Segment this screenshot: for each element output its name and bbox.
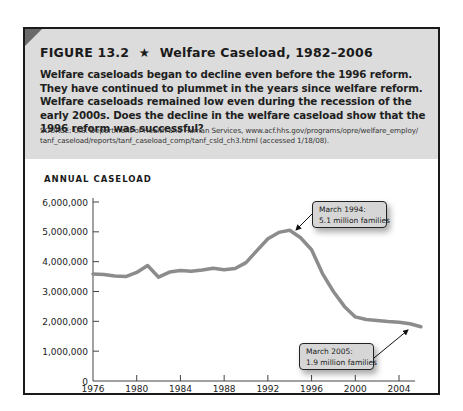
y-tick-label: 2,000,000 xyxy=(42,317,88,327)
callout-2005-line2: 1.9 million families xyxy=(306,358,367,369)
y-tick-label: 1,000,000 xyxy=(42,347,88,357)
y-tick-label: 6,000,000 xyxy=(42,198,88,208)
arrow-2005 xyxy=(374,330,408,358)
callout-arrows xyxy=(296,214,408,358)
y-tick-label: 3,000,000 xyxy=(42,287,88,297)
callout-peak-1994: March 1994: 5.1 million families xyxy=(312,201,387,228)
y-tick-label: 4,000,000 xyxy=(42,257,88,267)
x-tick-label: 1984 xyxy=(169,384,192,394)
y-tick-label: 5,000,000 xyxy=(42,227,88,237)
figure-box: FIGURE 13.2 ★ Welfare Caseload, 1982–200… xyxy=(23,27,440,395)
arrow-1994 xyxy=(296,214,312,230)
callout-2005: March 2005: 1.9 million families xyxy=(299,343,374,370)
callout-2005-line1: March 2005: xyxy=(306,347,367,358)
callout-peak-line1: March 1994: xyxy=(319,205,380,216)
chart-series xyxy=(93,230,421,326)
line-chart: 6,000,0005,000,0004,000,0003,000,0002,00… xyxy=(2,2,463,411)
x-tick-label: 1996 xyxy=(300,384,323,394)
caseload-line xyxy=(93,230,421,326)
x-tick-label: 2004 xyxy=(388,384,411,394)
callout-peak-line2: 5.1 million families xyxy=(319,216,380,227)
x-tick-label: 2000 xyxy=(344,384,367,394)
x-tick-label: 1980 xyxy=(125,384,148,394)
x-tick-label: 1976 xyxy=(82,384,105,394)
x-tick-label: 1988 xyxy=(213,384,236,394)
x-tick-label: 1992 xyxy=(256,384,279,394)
